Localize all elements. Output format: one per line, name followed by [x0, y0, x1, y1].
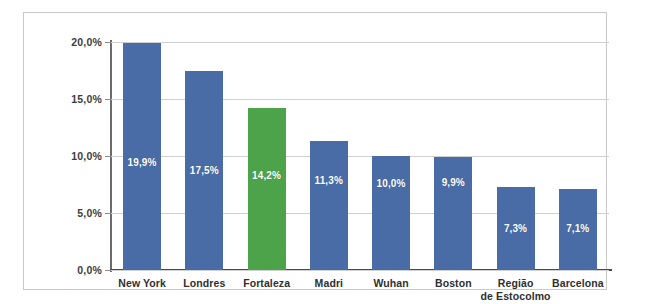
category-label-line: de Estocolmo: [473, 290, 559, 303]
category-label: Barcelona: [535, 277, 621, 290]
bar[interactable]: 7,3%: [497, 187, 535, 270]
y-tick-mark: [105, 270, 111, 271]
bar-value-label: 17,5%: [185, 165, 223, 176]
bar-value-label: 11,3%: [310, 175, 348, 186]
bar[interactable]: 17,5%: [185, 71, 223, 271]
bar[interactable]: 14,2%: [248, 108, 286, 270]
bar[interactable]: 7,1%: [559, 189, 597, 270]
bar[interactable]: 11,3%: [310, 141, 348, 270]
bar-value-label: 10,0%: [372, 178, 410, 189]
bar-value-label: 7,3%: [497, 223, 535, 234]
bar-slot: 17,5%: [173, 42, 235, 270]
y-tick-label: 15,0%: [71, 93, 102, 105]
bar-value-label: 19,9%: [123, 157, 161, 168]
bar-slot: 14,2%: [236, 42, 298, 270]
bar[interactable]: 19,9%: [123, 43, 161, 270]
bar[interactable]: 10,0%: [372, 156, 410, 270]
bar-slot: 9,9%: [422, 42, 484, 270]
bar-slot: 7,3%: [485, 42, 547, 270]
bar[interactable]: 9,9%: [434, 157, 472, 270]
y-tick-label: 10,0%: [71, 150, 102, 162]
bar-value-label: 7,1%: [559, 223, 597, 234]
bar-value-label: 9,9%: [434, 177, 472, 188]
plot-area: 0,0%5,0%10,0%15,0%20,0% 19,9%17,5%14,2%1…: [111, 42, 609, 270]
category-label-line: Barcelona: [535, 277, 621, 290]
bar-slot: 10,0%: [360, 42, 422, 270]
bar-value-label: 14,2%: [248, 170, 286, 181]
y-tick-label: 5,0%: [77, 207, 102, 219]
y-tick-label: 0,0%: [77, 264, 102, 276]
gridline-0_0_: [111, 270, 609, 271]
y-tick-label: 20,0%: [71, 36, 102, 48]
bar-slot: 7,1%: [547, 42, 609, 270]
bar-slot: 19,9%: [111, 42, 173, 270]
chart-frame: 0,0%5,0%10,0%15,0%20,0% 19,9%17,5%14,2%1…: [23, 12, 607, 290]
bar-slot: 11,3%: [298, 42, 360, 270]
